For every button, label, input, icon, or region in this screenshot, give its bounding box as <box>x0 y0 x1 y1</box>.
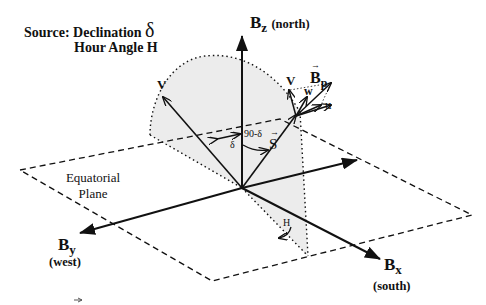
bx-direction: (south) <box>373 280 411 293</box>
delta-angle-label: δ <box>230 140 235 150</box>
v-short-label: V <box>286 74 295 87</box>
plane-label-line2: Plane <box>58 187 128 200</box>
u-label: u <box>325 98 332 111</box>
equatorial-plane-label: Equatorial Plane <box>58 171 128 200</box>
hour-angle-symbol: H <box>283 218 290 228</box>
bx-sub: x <box>395 262 402 277</box>
bp-label: Bp <box>310 70 327 89</box>
bz-letter: B <box>250 13 261 32</box>
bx-axis-label: Bx <box>384 256 402 276</box>
bz-direction: (north) <box>271 17 309 31</box>
source-label: Source: Declination δ <box>24 20 155 40</box>
by-direction: (west) <box>49 256 81 269</box>
bz-sub: z <box>261 20 267 35</box>
bp-sub: p <box>321 76 328 90</box>
bp-letter: B <box>310 70 321 86</box>
v-main-label: V <box>157 78 166 91</box>
ninety-minus-delta-label: 90-δ <box>244 129 262 139</box>
bx-letter: B <box>384 255 395 274</box>
hour-angle-label: Hour Angle H <box>74 41 158 55</box>
s-letter: S <box>269 137 277 152</box>
declination-symbol: δ <box>145 19 154 41</box>
plane-label-line1: Equatorial <box>58 171 128 184</box>
by-letter: B <box>58 235 69 254</box>
source-text: Source: Declination <box>24 25 142 40</box>
s-label: S <box>269 137 277 152</box>
bz-axis-label: Bz (north) <box>250 14 310 34</box>
bx-axis <box>242 188 380 259</box>
by-axis-label: By <box>58 236 76 256</box>
